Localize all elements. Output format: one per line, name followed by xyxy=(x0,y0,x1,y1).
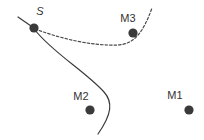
node-m1-dot xyxy=(184,105,193,114)
node-m1-label: M1 xyxy=(167,89,182,101)
solid-trajectory-path xyxy=(35,30,110,134)
node-m3-dot xyxy=(128,28,137,37)
node-m2[interactable]: M2 xyxy=(73,90,94,115)
trajectory-diagram: S M3 M2 M1 xyxy=(0,0,204,140)
node-m1[interactable]: M1 xyxy=(167,89,193,115)
node-m3[interactable]: M3 xyxy=(120,12,137,38)
node-m2-label: M2 xyxy=(73,90,88,102)
node-m2-dot xyxy=(85,105,94,114)
node-s-label: S xyxy=(36,5,44,17)
incoming-stub-line xyxy=(18,17,31,26)
node-m3-label: M3 xyxy=(120,12,135,24)
diagram-canvas: S M3 M2 M1 xyxy=(0,0,204,140)
node-s-dot xyxy=(29,23,38,32)
node-s[interactable]: S xyxy=(29,5,44,33)
